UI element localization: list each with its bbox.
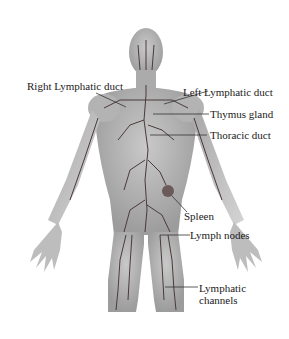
right-leg xyxy=(108,232,144,312)
label-left-lymphatic-duct: Left Lymphatic duct xyxy=(183,86,273,98)
spleen-organ xyxy=(162,185,174,197)
label-spleen: Spleen xyxy=(184,210,214,222)
label-lymphatic-channels-line1: Lymphatic xyxy=(199,282,246,294)
lymphatic-system-diagram: Right Lymphatic duct Left Lymphatic duct… xyxy=(0,0,289,339)
right-arm xyxy=(48,110,100,225)
label-thymus-gland: Thymus gland xyxy=(210,108,273,120)
label-lymphatic-channels-line2: channels xyxy=(199,294,237,306)
label-right-lymphatic-duct: Right Lymphatic duct xyxy=(27,80,123,92)
left-arm xyxy=(192,110,244,225)
label-thoracic-duct: Thoracic duct xyxy=(210,129,271,141)
left-leg xyxy=(148,232,184,312)
label-lymph-nodes: Lymph nodes xyxy=(190,229,250,241)
right-hand xyxy=(30,222,62,272)
